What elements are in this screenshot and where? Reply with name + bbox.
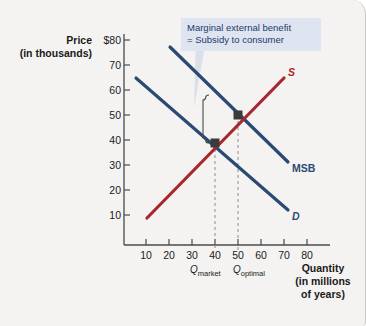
y-tick-label-60: 60 [85,84,121,96]
q-market-sub: market [198,269,221,278]
y-tick-label-30: 30 [85,159,121,171]
callout-box: Marginal external benefit = Subsidy to c… [181,18,321,51]
callout-line1: Marginal external benefit [187,22,315,34]
x-axis-ticks [146,239,307,245]
y-axis-title-line1: Price [18,34,92,47]
y-tick-label-20: 20 [85,184,121,196]
q-optimal-base: Q [233,264,241,275]
demand-curve-label: D [292,210,300,222]
y-axis-title-line2: (in thousands) [18,47,92,60]
supply-curve-label: S [288,66,295,78]
marker-market-equilibrium [211,139,220,148]
q-market-base: Q [190,264,198,275]
marker-optimal-equilibrium [234,111,243,120]
x-tick-label-80: 80 [293,249,321,261]
y-axis-ticks [124,40,130,215]
y-axis-title: Price (in thousands) [18,34,92,60]
q-optimal-sub: optimal [241,269,265,278]
y-tick-label-40: 40 [85,134,121,146]
y-tick-label-70: 70 [85,59,121,71]
figure-card: Price (in thousands) $80 70 60 50 40 30 … [0,0,366,326]
callout-line2: = Subsidy to consumer [187,34,315,46]
msb-curve-label: MSB [292,162,315,174]
x-axis-title-line3: of years) [286,288,360,301]
y-tick-label-80: $80 [85,34,121,46]
y-tick-label-10: 10 [85,209,121,221]
q-market-label: Qmarket [190,264,221,278]
x-axis-title-line2: (in millions [286,275,360,288]
q-optimal-label: Qoptimal [233,264,265,278]
x-axis-title-line1: Quantity [286,262,360,275]
msb-curve [170,47,288,162]
y-tick-label-50: 50 [85,109,121,121]
x-axis-title: Quantity (in millions of years) [286,262,360,301]
